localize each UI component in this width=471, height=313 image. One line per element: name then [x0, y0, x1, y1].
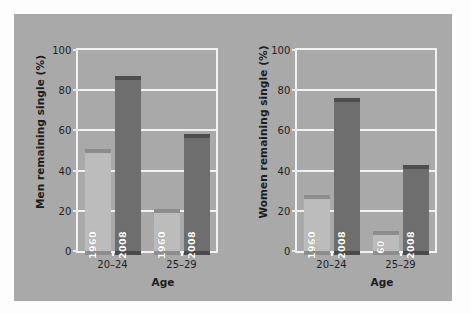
x-axis-tick-mark [331, 251, 333, 256]
y-axis-tick-mark [73, 170, 78, 172]
y-axis-tick-mark [292, 129, 297, 131]
y-axis-tick-mark [73, 250, 78, 252]
x-axis-tick-mark [112, 251, 114, 256]
y-axis-tick-mark [73, 129, 78, 131]
y-axis-tick-mark [292, 89, 297, 91]
x-axis-tick-mark [181, 251, 183, 256]
x-axis-tick-label: 20–24 [316, 259, 346, 270]
y-axis-tick-mark [292, 49, 297, 51]
bar-value-label: 1960 [87, 231, 98, 259]
bar-men-2008-25-29: 2008 [184, 134, 210, 251]
bar-value-label: 60 [376, 240, 386, 253]
x-axis-tick-label: 20–24 [97, 259, 127, 270]
bar-value-label: 1960 [156, 231, 167, 259]
bar-men-1960-25-29: 1960 [154, 209, 180, 251]
chart-women-remaining-single: Women remaining single (%) 0204060801001… [233, 14, 452, 301]
bar-men-1960-20-24: 1960 [85, 149, 111, 252]
bar-value-label: 2008 [117, 231, 128, 259]
x-axis-title-men: Age [92, 276, 234, 288]
bar-front-face [334, 102, 360, 251]
figure-panel: Men remaining single (%) 020406080100196… [14, 14, 452, 301]
x-axis-tick-label: 25–29 [166, 259, 196, 270]
bar-front-face [115, 80, 141, 251]
bar-women-1960-20-24: 1960 [304, 195, 330, 251]
y-axis-tick-mark [73, 89, 78, 91]
bar-value-label: 2008 [336, 231, 347, 259]
x-axis-title-women: Age [311, 276, 453, 288]
y-axis-tick-mark [292, 170, 297, 172]
y-axis-title-men: Men remaining single (%) [34, 42, 46, 222]
bar-men-2008-20-24: 2008 [115, 76, 141, 251]
bar-value-label: 1960 [306, 231, 317, 259]
figure-root: Men remaining single (%) 020406080100196… [0, 0, 471, 313]
x-axis-tick-label: 25–29 [385, 259, 415, 270]
gridline [297, 89, 435, 91]
bar-value-label: 2008 [405, 231, 416, 259]
y-axis-tick-mark [73, 49, 78, 51]
y-axis-title-women: Women remaining single (%) [257, 42, 269, 222]
gridline [78, 129, 216, 131]
y-axis-tick-mark [73, 210, 78, 212]
bar-women-2008-20-24: 2008 [334, 98, 360, 251]
chart-men-remaining-single: Men remaining single (%) 020406080100196… [14, 14, 233, 301]
gridline [78, 89, 216, 91]
y-axis-tick-mark [292, 210, 297, 212]
bar-women-2008-25-29: 2008 [403, 165, 429, 251]
plot-area-men: 0204060801001960200820–241960200825–29 [76, 48, 218, 253]
plot-area-women: 0204060801001960200820–2460200825–29 [295, 48, 437, 253]
x-axis-tick-mark [400, 251, 402, 256]
y-axis-tick-label: 100 [271, 45, 294, 56]
y-axis-tick-label: 100 [52, 45, 75, 56]
bar-women-1960-25-29: 60 [373, 231, 399, 251]
bar-value-label: 2008 [186, 231, 197, 259]
gridline [297, 129, 435, 131]
y-axis-tick-mark [292, 250, 297, 252]
